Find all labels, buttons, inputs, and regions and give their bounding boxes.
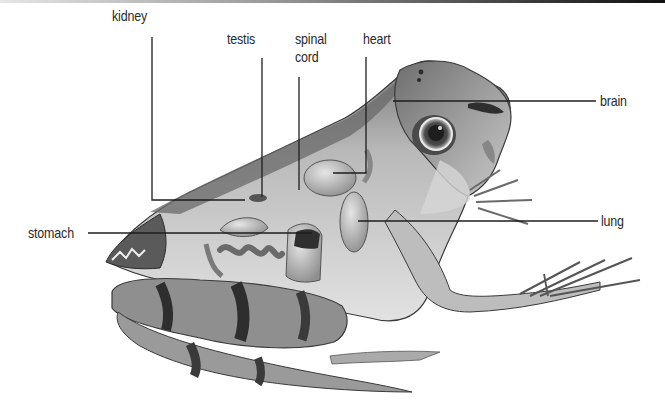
spinal-cord-label-line1: spinal: [295, 30, 327, 48]
frog-anatomy-figure: kidney testis spinal cord heart brain lu…: [0, 0, 665, 403]
testis-organ: [249, 194, 267, 202]
frog-illustration: [0, 0, 665, 403]
heart-organ: [304, 160, 356, 196]
lung-organ: [340, 192, 368, 252]
brain-label: brain: [600, 92, 627, 110]
heart-label: heart: [363, 30, 391, 48]
kidney-label: kidney: [112, 7, 147, 25]
lung-label: lung: [601, 212, 624, 230]
spinal-cord-label-line2: cord: [295, 48, 319, 66]
testis-label: testis: [227, 30, 255, 48]
stomach-label: stomach: [28, 224, 74, 242]
